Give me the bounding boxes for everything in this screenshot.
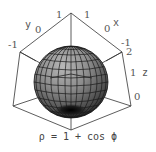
y-axis-label: y — [25, 19, 31, 30]
plot-caption: ρ = 1 + cos ϕ — [0, 131, 156, 142]
y-tick-1: 1 — [56, 9, 62, 20]
z-tick-2: 2 — [126, 46, 132, 57]
surface — [34, 46, 108, 118]
y-tick-neg1: -1 — [8, 39, 18, 50]
x-tick-1: 1 — [84, 9, 90, 20]
z-axis-label: z — [142, 67, 148, 78]
x-axis-label: x — [113, 17, 119, 28]
surface-plot: 1 y 0 -1 1 x 0 -1 2 1 z 0 — [0, 0, 156, 152]
z-tick-0: 0 — [134, 91, 140, 102]
cusp — [55, 104, 87, 116]
z-tick-1: 1 — [130, 67, 136, 78]
y-tick-0: 0 — [35, 24, 41, 35]
x-tick-0: 0 — [104, 23, 110, 34]
